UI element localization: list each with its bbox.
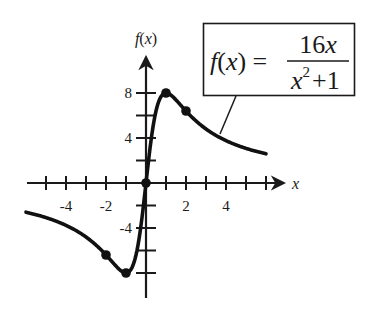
x-tick-label: 2 — [182, 198, 190, 214]
callout-leader-line — [220, 96, 236, 134]
marked-point — [121, 268, 131, 278]
formula-denominator: x2+1 — [290, 64, 340, 95]
marked-point — [181, 106, 191, 116]
y-axis-label: f(x) — [135, 30, 157, 48]
marked-point — [101, 250, 111, 260]
function-graph: -4-224 84-4 x f(x) f(x) = 16x x2+1 — [0, 0, 374, 313]
y-tick-label: 4 — [125, 130, 133, 146]
formula-numerator: 16x — [299, 30, 337, 59]
y-axis-tick-labels: 84-4 — [120, 85, 133, 236]
x-tick-label: -4 — [60, 198, 73, 214]
y-tick-label: -4 — [120, 220, 133, 236]
formula-callout: f(x) = 16x x2+1 — [204, 24, 355, 96]
formula-lhs: f(x) = — [210, 47, 267, 76]
x-tick-label: -2 — [100, 198, 113, 214]
marked-point — [161, 88, 171, 98]
marked-point — [141, 178, 151, 188]
x-tick-label: 4 — [222, 198, 230, 214]
y-tick-label: 8 — [125, 85, 133, 101]
x-axis-label: x — [291, 175, 299, 192]
